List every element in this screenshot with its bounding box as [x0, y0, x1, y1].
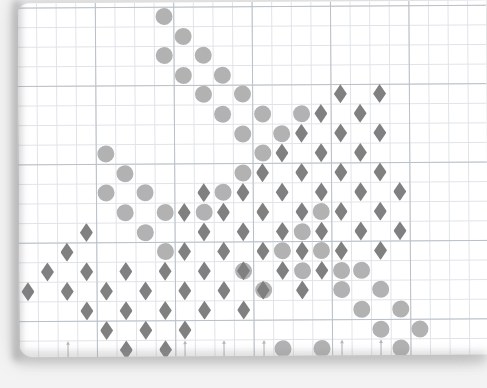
data-point-diamond	[120, 301, 133, 320]
data-point-diamond	[21, 282, 34, 301]
data-point-diamond	[295, 163, 308, 182]
data-point-circle	[97, 146, 114, 163]
data-point-diamond	[100, 321, 113, 340]
arrow-up-icon	[222, 340, 227, 358]
data-point-circle	[293, 223, 310, 240]
data-point-circle	[215, 184, 232, 201]
data-point-diamond	[315, 143, 328, 162]
data-point-diamond	[374, 202, 387, 221]
data-point-circle	[195, 204, 212, 221]
data-point-diamond	[374, 241, 387, 260]
data-point-diamond	[334, 124, 347, 143]
data-point-circle	[214, 106, 231, 123]
data-point-diamond	[276, 183, 289, 202]
data-point-diamond	[198, 262, 211, 281]
data-point-diamond	[217, 281, 230, 300]
data-point-circle	[294, 262, 311, 279]
data-point-diamond	[159, 340, 172, 357]
data-point-circle	[274, 242, 291, 259]
data-point-diamond	[295, 202, 308, 221]
data-point-diamond	[393, 221, 406, 240]
data-point-diamond	[236, 183, 249, 202]
arrow-up-icon	[261, 340, 266, 358]
data-point-circle	[313, 203, 330, 220]
graph-paper-sheet	[17, 1, 487, 358]
arrow-up-icon	[183, 340, 188, 357]
data-point-diamond	[296, 241, 309, 260]
data-point-diamond	[295, 124, 308, 143]
data-point-diamond	[296, 281, 309, 300]
data-point-circle	[117, 165, 134, 182]
data-point-circle	[254, 145, 271, 162]
data-point-diamond	[354, 104, 367, 123]
data-point-diamond	[354, 221, 367, 240]
data-point-diamond	[159, 262, 172, 281]
arrow-up-icon	[339, 339, 344, 357]
data-point-diamond	[237, 301, 250, 320]
data-point-circle	[333, 281, 350, 298]
data-point-diamond	[139, 282, 152, 301]
data-point-circle	[155, 8, 172, 25]
data-point-circle	[175, 67, 192, 84]
data-point-diamond	[237, 222, 250, 241]
data-point-diamond	[100, 282, 113, 301]
data-point-diamond	[217, 242, 230, 261]
data-point-diamond	[315, 222, 328, 241]
data-point-diamond	[60, 243, 73, 262]
data-point-circle	[353, 262, 370, 279]
data-point-circle	[156, 204, 173, 221]
data-point-diamond	[80, 301, 93, 320]
data-point-diamond	[217, 203, 230, 222]
data-point-circle	[137, 224, 154, 241]
data-point-diamond	[198, 301, 211, 320]
data-point-diamond	[334, 84, 347, 103]
data-point-diamond	[354, 143, 367, 162]
data-point-diamond	[276, 222, 289, 241]
data-point-diamond	[120, 340, 133, 357]
data-point-diamond	[373, 84, 386, 103]
data-point-circle	[136, 184, 153, 201]
data-point-circle	[156, 243, 173, 260]
data-point-diamond	[335, 241, 348, 260]
data-point-circle	[117, 204, 134, 221]
data-point-diamond	[335, 202, 348, 221]
data-point-circle	[195, 86, 212, 103]
data-point-circle	[97, 185, 114, 202]
data-point-diamond	[197, 183, 210, 202]
data-point-diamond	[354, 182, 367, 201]
data-point-circle	[412, 320, 429, 337]
data-point-circle	[392, 340, 409, 357]
data-point-diamond	[373, 123, 386, 142]
data-point-diamond	[197, 222, 210, 241]
data-point-diamond	[178, 242, 191, 261]
data-point-circle	[372, 281, 389, 298]
data-point-circle	[372, 320, 389, 337]
data-point-circle	[293, 105, 310, 122]
data-point-circle	[234, 125, 251, 142]
data-point-circle	[254, 105, 271, 122]
data-point-circle	[155, 47, 172, 64]
data-point-diamond	[315, 182, 328, 201]
data-point-circle	[273, 125, 290, 142]
data-point-diamond	[80, 223, 93, 242]
data-point-diamond	[256, 163, 269, 182]
data-point-diamond	[119, 262, 132, 281]
data-point-diamond	[61, 282, 74, 301]
data-point-circle	[313, 242, 330, 259]
arrow-up-icon	[65, 341, 70, 358]
data-point-diamond	[139, 321, 152, 340]
data-point-diamond	[178, 320, 191, 339]
data-point-diamond	[276, 261, 289, 280]
data-point-circle	[234, 164, 251, 181]
data-point-diamond	[314, 104, 327, 123]
data-point-diamond	[275, 143, 288, 162]
data-point-circle	[392, 301, 409, 318]
data-point-circle	[194, 47, 211, 64]
data-point-diamond	[256, 242, 269, 261]
data-point-circle	[175, 27, 192, 44]
data-point-diamond	[178, 281, 191, 300]
data-point-diamond	[373, 162, 386, 181]
data-point-circle	[314, 340, 331, 357]
data-point-circle	[214, 66, 231, 83]
data-point-diamond	[159, 301, 172, 320]
